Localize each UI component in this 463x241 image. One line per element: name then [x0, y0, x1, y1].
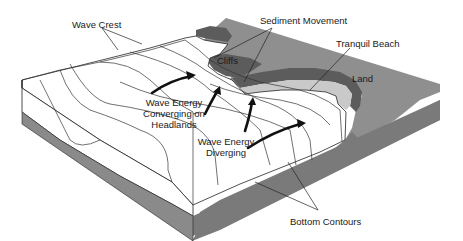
label-wave-energy-diverging: Wave Energy Diverging [190, 136, 262, 158]
label-line: Diverging [190, 147, 262, 158]
label-tranquil-beach: Tranquil Beach [336, 38, 400, 49]
label-bottom-contours: Bottom Contours [290, 216, 361, 227]
leader-wave-crest [102, 28, 142, 50]
label-cliffs: Cliffs [217, 55, 238, 66]
label-line: Wave Energy [190, 136, 262, 147]
label-land: Land [352, 73, 373, 84]
label-wave-crest: Wave Crest [72, 19, 121, 30]
wave-refraction-diagram [0, 0, 463, 241]
label-line: Wave Energy [134, 97, 214, 108]
label-sediment-movement: Sediment Movement [260, 15, 347, 26]
label-line: Headlands [134, 119, 214, 130]
label-line: Converging on [134, 108, 214, 119]
label-wave-energy-converging: Wave Energy Converging on Headlands [134, 97, 214, 130]
